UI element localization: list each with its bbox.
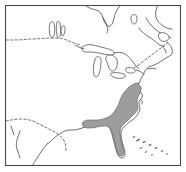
map-canvas: Distribution map of eastern North Americ… — [0, 0, 186, 172]
newfoundland-island — [131, 15, 137, 24]
map-frame-border — [6, 6, 181, 166]
lake-winnipegosis — [61, 26, 65, 36]
lake-winnipeg — [49, 22, 55, 38]
range-map-figure: Distribution map of eastern North Americ… — [0, 0, 186, 172]
lake-ontario — [126, 68, 136, 73]
lake-manitoba — [56, 21, 61, 37]
